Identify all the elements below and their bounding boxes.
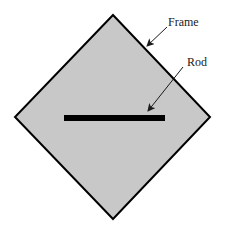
frame-pointer-arrow [147, 27, 167, 46]
frame-label: Frame [168, 16, 199, 28]
frame-rod-diagram [0, 0, 228, 232]
rod-label: Rod [187, 56, 207, 68]
rod-bar [64, 115, 165, 121]
